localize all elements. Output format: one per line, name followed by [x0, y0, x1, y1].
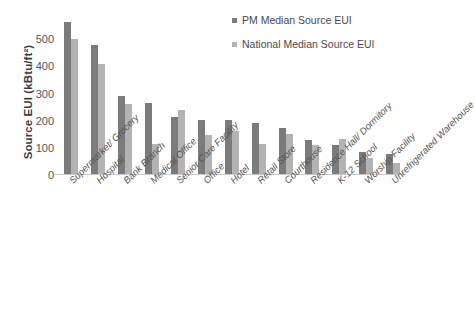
y-axis-tick-labels: 0100200300400500 — [24, 0, 54, 313]
y-tick-label: 300 — [36, 88, 54, 100]
legend-label: National Median Source EUI — [242, 38, 375, 50]
bar-group — [112, 12, 139, 175]
y-tick-label: 100 — [36, 142, 54, 154]
chart-legend: PM Median Source EUINational Median Sour… — [232, 14, 375, 62]
legend-item[interactable]: National Median Source EUI — [232, 38, 375, 50]
x-axis-category-labels: Supermarket/ GroceryHospitalBank BranchM… — [58, 178, 406, 313]
bar-pm — [64, 22, 71, 175]
y-tick-label: 400 — [36, 60, 54, 72]
y-tick-label: 200 — [36, 115, 54, 127]
bar-pm — [252, 123, 259, 175]
legend-item[interactable]: PM Median Source EUI — [232, 14, 375, 26]
bar-national — [71, 39, 78, 175]
legend-swatch-icon — [232, 42, 237, 47]
y-tick-label: 500 — [36, 33, 54, 45]
y-tick-label: 0 — [48, 169, 54, 181]
legend-label: PM Median Source EUI — [242, 14, 352, 26]
legend-swatch-icon — [232, 18, 237, 23]
bar-group — [58, 12, 85, 175]
